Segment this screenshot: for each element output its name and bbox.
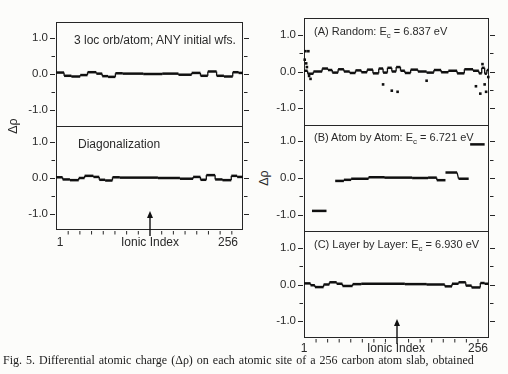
- y-tick-label: 0.0: [264, 171, 296, 183]
- panel-title-atom-by-atom: (B) Atom by Atom: Ec = 6.721 eV: [314, 131, 474, 143]
- y-tick-label: 1.0: [264, 241, 296, 253]
- panel-title-random-sub: c: [387, 31, 391, 40]
- y-tick-label: 0.0: [264, 65, 296, 77]
- panel-title-atom-prefix: (B) Atom by Atom: E: [314, 131, 413, 143]
- panel-title-random-prefix: (A) Random: E: [314, 25, 387, 37]
- panel-title-layer-by-layer: (C) Layer by Layer: Ec = 6.930 eV: [314, 238, 479, 250]
- figure-5: 3 loc orb/atom; ANY initial wfs. Diagona…: [0, 0, 508, 374]
- right-plot-frame: [304, 18, 489, 338]
- y-tick-label: 0.0: [16, 171, 48, 183]
- left-plot-frame: [56, 22, 243, 230]
- y-tick-label: 0.0: [16, 67, 48, 79]
- y-tick-label: 1.0: [264, 28, 296, 40]
- panel-title-layer-sub: c: [419, 244, 423, 253]
- y-tick-label: 0.0: [264, 278, 296, 290]
- panel-title-random: (A) Random: Ec = 6.837 eV: [314, 25, 447, 37]
- panel-title-random-suffix: = 6.837 eV: [391, 25, 448, 37]
- y-tick-label: 1.0: [16, 135, 48, 147]
- panel-title-layer-prefix: (C) Layer by Layer: E: [314, 238, 419, 250]
- y-tick-label: -1.0: [16, 103, 48, 115]
- y-tick-label: 1.0: [16, 31, 48, 43]
- panel-title-atom-sub: c: [413, 137, 417, 146]
- panel-title-atom-suffix: = 6.721 eV: [417, 131, 474, 143]
- y-tick-label: -1.0: [264, 314, 296, 326]
- left-x-last-tick-label: 256: [206, 235, 250, 249]
- y-tick-label: -1.0: [264, 208, 296, 220]
- figure-caption: Fig. 5. Differential atomic charge (Δρ) …: [3, 353, 506, 368]
- y-tick-label: -1.0: [264, 101, 296, 113]
- y-tick-label: -1.0: [16, 207, 48, 219]
- panel-title-diagonalization: Diagonalization: [78, 137, 160, 151]
- left-x-axis-label: Ionic Index: [100, 235, 200, 249]
- left-x-first-tick-label: 1: [50, 235, 70, 249]
- panel-title-layer-suffix: = 6.930 eV: [423, 238, 480, 250]
- panel-title-loc-orb: 3 loc orb/atom; ANY initial wfs.: [74, 33, 236, 47]
- y-tick-label: 1.0: [264, 134, 296, 146]
